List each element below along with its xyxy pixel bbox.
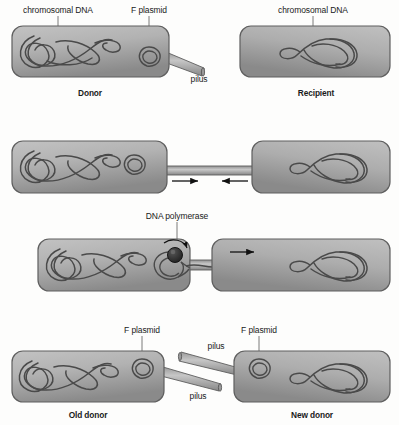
conjugation-diagram: chromosomal DNA F plasmid chromosomal DN… xyxy=(0,0,399,425)
donor-cell xyxy=(12,26,169,77)
label-recipient-cell: Recipient xyxy=(298,88,334,98)
panel-3 xyxy=(38,222,390,291)
label-chromosomal-dna-donor: chromosomal DNA xyxy=(23,5,93,15)
label-f-plasmid-new-donor: F plasmid xyxy=(241,325,277,335)
label-donor-cell: Donor xyxy=(78,88,102,98)
panel-2 xyxy=(12,141,390,193)
label-dna-polymerase: DNA polymerase xyxy=(146,211,208,221)
label-f-plasmid-old-donor: F plasmid xyxy=(124,325,160,335)
label-pilus-lower: pilus xyxy=(190,391,207,401)
recipient-cell xyxy=(240,26,390,77)
pilus-upper xyxy=(178,352,239,375)
dna-polymerase-blob xyxy=(168,248,183,263)
pilus-lower xyxy=(161,367,222,391)
label-chromosomal-dna-recipient: chromosomal DNA xyxy=(278,5,348,15)
label-old-donor-cell: Old donor xyxy=(69,410,108,420)
label-f-plasmid-donor: F plasmid xyxy=(131,5,167,15)
label-pilus-upper: pilus xyxy=(208,341,225,351)
label-pilus-donor: pilus xyxy=(191,74,208,84)
label-new-donor-cell: New donor xyxy=(291,410,333,420)
panel-1-pilus xyxy=(164,52,205,76)
